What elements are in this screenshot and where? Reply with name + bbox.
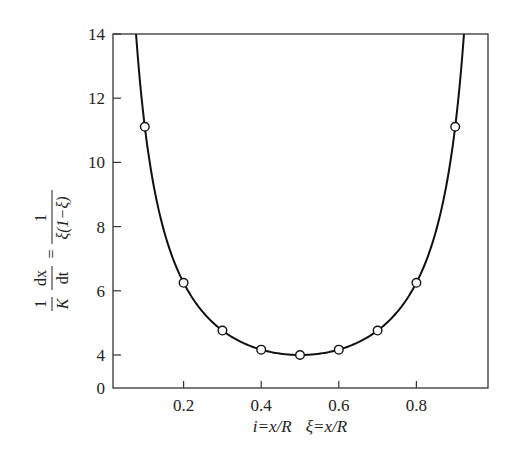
svg-text:dt: dt: [54, 271, 71, 284]
x-tick-label: 0.2: [173, 396, 194, 415]
y-tick-label: 8: [97, 218, 106, 237]
data-point: [257, 345, 266, 354]
data-markers: [141, 122, 460, 359]
y-axis: 0468101214: [88, 25, 121, 398]
data-point: [218, 326, 227, 335]
svg-text:1: 1: [32, 300, 49, 308]
svg-text:dx: dx: [32, 270, 49, 286]
data-curve: [136, 34, 464, 355]
data-point: [451, 122, 460, 131]
plot-frame: [113, 34, 488, 388]
x-tick-label: 0.8: [406, 396, 427, 415]
y-axis-label: 1 K dx dt = 1 ξ(1−ξ): [32, 190, 72, 311]
x-tick-label: 0.4: [251, 396, 273, 415]
data-point: [296, 351, 305, 360]
data-point: [179, 278, 188, 287]
y-tick-label: 14: [88, 25, 106, 44]
x-tick-label: 0.6: [328, 396, 349, 415]
y-tick-label: 6: [97, 282, 106, 301]
svg-text:=: =: [43, 249, 60, 258]
svg-text:1: 1: [32, 214, 49, 222]
y-tick-label: 0: [97, 379, 106, 398]
y-tick-label: 12: [88, 89, 105, 108]
data-point: [335, 345, 344, 354]
y-tick-label: 4: [97, 346, 106, 365]
svg-text:ξ(1−ξ): ξ(1−ξ): [54, 196, 72, 239]
chart: 0468101214 0.20.40.60.8 i=x/Rξ=x/R 1 K d…: [0, 0, 528, 470]
data-point: [373, 326, 382, 335]
x-axis-label: i=x/Rξ=x/R: [253, 417, 348, 436]
data-point: [412, 278, 421, 287]
svg-text:K: K: [54, 297, 71, 310]
x-axis: 0.20.40.60.8: [173, 381, 427, 415]
data-point: [141, 122, 150, 131]
y-tick-label: 10: [88, 153, 105, 172]
